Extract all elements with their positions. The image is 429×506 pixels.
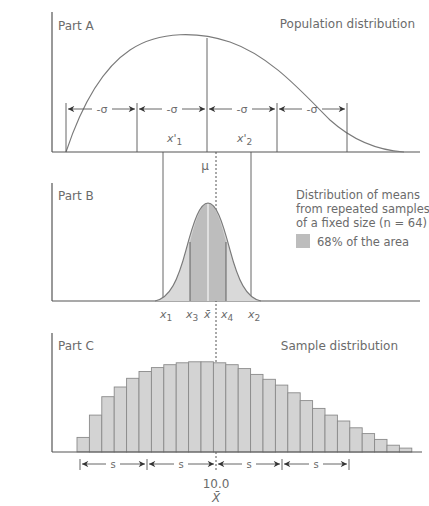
histogram-bar — [263, 379, 275, 452]
histogram-bar — [325, 415, 337, 452]
part-b-legend: Distribution of means from repeated samp… — [296, 188, 429, 249]
x-prime-1-label: x'1 — [166, 132, 182, 147]
histogram-bar — [251, 374, 263, 452]
population-curve — [66, 35, 404, 152]
histogram-bar — [201, 362, 213, 452]
histogram-bar — [139, 372, 151, 453]
histogram-bar — [176, 363, 188, 452]
x2-tick: x2 — [247, 308, 260, 323]
xbar-tick: x̄ — [203, 308, 211, 321]
sampling-distribution-figure: Part A Population distribution -σ -σ -σ … — [0, 0, 429, 506]
part-b-panel: Part B x1 x3 x̄ x4 x2 Distribution of me… — [52, 183, 429, 323]
center-value: 10.0 — [203, 477, 230, 491]
svg-text:-σ: -σ — [237, 103, 248, 116]
histogram-bar — [387, 445, 399, 452]
svg-text:from repeated samples: from repeated samples — [296, 202, 429, 216]
svg-text:-σ: -σ — [167, 103, 178, 116]
center-symbol: X̄ — [211, 491, 221, 505]
histogram-bar — [337, 421, 349, 452]
legend-swatch — [296, 234, 310, 248]
part-b-ticks: x1 x3 x̄ x4 x2 — [159, 308, 260, 323]
x-prime-2-label: x'2 — [236, 132, 252, 147]
svg-text:s: s — [178, 459, 183, 470]
part-a-panel: Part A Population distribution -σ -σ -σ … — [52, 12, 420, 152]
part-c-label: Part C — [58, 339, 94, 353]
histogram-bar — [164, 365, 176, 452]
histogram-bar — [275, 385, 287, 452]
svg-text:68% of the area: 68% of the area — [317, 235, 409, 249]
part-a-label: Part A — [58, 19, 95, 33]
histogram-bar — [238, 369, 250, 452]
svg-text:-σ: -σ — [307, 103, 318, 116]
svg-text:-σ: -σ — [97, 103, 108, 116]
histogram-bar — [77, 437, 89, 452]
histogram-bar — [102, 397, 114, 452]
svg-text:Distribution of means: Distribution of means — [296, 188, 420, 202]
histogram-bar — [313, 408, 325, 452]
histogram-bar — [213, 363, 225, 452]
histogram-bar — [226, 365, 238, 452]
histogram-bar — [127, 378, 139, 452]
histogram-bar — [114, 387, 126, 452]
part-c-title: Sample distribution — [281, 339, 398, 353]
part-b-label: Part B — [58, 189, 94, 203]
mu-label: μ — [201, 159, 209, 173]
histogram-bar — [151, 368, 163, 452]
x4-tick: x4 — [220, 308, 234, 323]
x1-tick: x1 — [159, 308, 172, 323]
part-a-title: Population distribution — [280, 17, 415, 31]
x3-tick: x3 — [185, 308, 198, 323]
part-c-panel: Part C Sample distribution s s s s 10.0 … — [52, 333, 422, 505]
svg-text:s: s — [246, 459, 251, 470]
svg-text:of a fixed size (n = 64): of a fixed size (n = 64) — [296, 216, 427, 230]
sigma-arrows: -σ -σ -σ -σ — [68, 103, 345, 116]
histogram-bar — [189, 362, 201, 452]
svg-text:s: s — [110, 459, 115, 470]
histogram-bar — [89, 415, 101, 452]
histogram-bar — [300, 401, 312, 452]
histogram-bar — [362, 434, 374, 452]
histogram-bar — [288, 393, 300, 452]
histogram-bars — [77, 362, 412, 452]
s-arrows: s s s s — [80, 459, 349, 470]
svg-text:s: s — [313, 459, 318, 470]
histogram-bar — [375, 439, 387, 452]
histogram-bar — [350, 428, 362, 452]
